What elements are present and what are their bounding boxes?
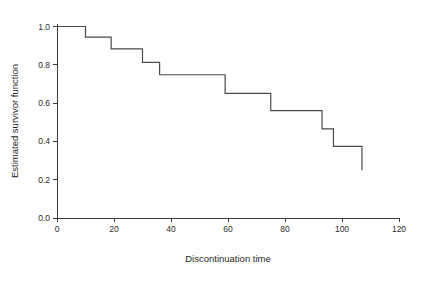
y-tick-label: 0.4: [38, 136, 50, 146]
x-tick-label: 20: [109, 224, 119, 234]
x-axis-title: Discontinuation time: [185, 253, 271, 264]
y-axis-title: Estimated survivor function: [9, 64, 20, 178]
y-ticks-group: 0.00.20.40.60.81.0: [38, 22, 57, 224]
survivor-step-curve: [57, 27, 362, 171]
x-tick-label: 100: [335, 224, 349, 234]
x-ticks-group: 020406080100120: [55, 218, 407, 234]
chart-canvas: 0.00.20.40.60.81.0 020406080100120 Disco…: [0, 0, 424, 284]
x-tick-label: 40: [166, 224, 176, 234]
y-tick-label: 0.0: [38, 213, 50, 223]
y-tick-label: 0.2: [38, 175, 50, 185]
y-tick-label: 0.6: [38, 98, 50, 108]
y-tick-label: 0.8: [38, 60, 50, 70]
survival-chart: 0.00.20.40.60.81.0 020406080100120 Disco…: [0, 0, 424, 284]
axes-group: [57, 24, 399, 218]
x-tick-label: 80: [280, 224, 290, 234]
x-tick-label: 0: [55, 224, 60, 234]
x-tick-label: 120: [392, 224, 406, 234]
y-tick-label: 1.0: [38, 22, 50, 32]
x-tick-label: 60: [223, 224, 233, 234]
